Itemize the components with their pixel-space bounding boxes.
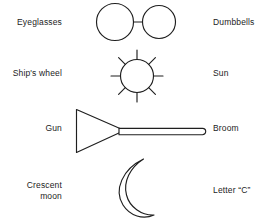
ambiguous-figures-sheet: Eyeglasses Dumbbells Ship's wheel bbox=[0, 0, 270, 221]
left-label-gun: Gun bbox=[0, 123, 62, 134]
right-label-broom: Broom bbox=[213, 123, 265, 134]
figure-row-gun: Gun Broom bbox=[0, 106, 270, 156]
right-label-dumbbells: Dumbbells bbox=[213, 17, 270, 28]
left-label-crescent-moon: Crescent moon bbox=[0, 180, 62, 201]
figure-row-eyeglasses: Eyeglasses Dumbbells bbox=[0, 0, 270, 48]
figure-triangle-with-long-rod bbox=[74, 107, 210, 155]
right-label-letter-c: Letter “C” bbox=[213, 185, 269, 196]
figure-row-sun: Ship's wheel Sun bbox=[0, 48, 270, 106]
figure-crescent-outline bbox=[112, 157, 164, 220]
figure-two-circles-joined-by-bar bbox=[95, 2, 179, 46]
left-label-ships-wheel: Ship's wheel bbox=[0, 68, 62, 79]
right-label-sun: Sun bbox=[213, 68, 263, 79]
figure-circle-with-eight-radiating-spokes bbox=[110, 50, 166, 104]
figure-row-crescent-moon: Crescent moon Letter “C” bbox=[0, 156, 270, 221]
left-label-eyeglasses: Eyeglasses bbox=[0, 17, 62, 28]
